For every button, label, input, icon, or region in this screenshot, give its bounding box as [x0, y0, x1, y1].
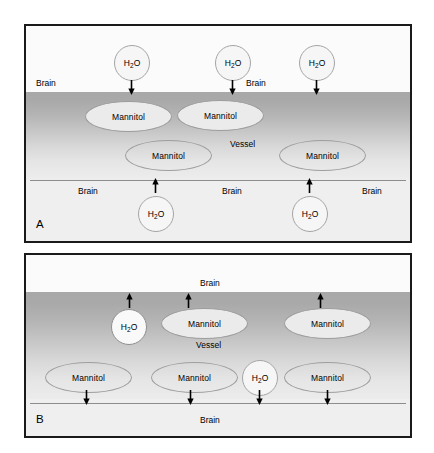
panel-a-vessel-lower-wall	[30, 180, 406, 181]
panel-b-mannitol-3: Mannitol	[45, 362, 132, 393]
panel-a-water-molecule-1: H2O	[114, 45, 150, 81]
panel-b-arrow-down-2	[186, 390, 195, 405]
panel-a-arrow-up-2	[305, 178, 314, 193]
panel-b-water-molecule-1: H2O	[111, 309, 147, 345]
panel-b-arrow-down-3	[255, 390, 264, 405]
panel-a-water-molecule-4: H2O	[138, 196, 174, 232]
panel-a-brain-label-4: Brain	[222, 186, 242, 196]
panel-b-arrow-down-1	[82, 390, 91, 405]
panel-a-letter: A	[36, 218, 44, 230]
panel-a-mannitol-4: Mannitol	[279, 140, 366, 171]
water-formula: H2O	[309, 58, 326, 68]
panel-a-water-molecule-5: H2O	[292, 196, 328, 232]
panel-b-mannitol-4: Mannitol	[151, 362, 238, 393]
panel-a-arrow-down-1	[127, 80, 136, 95]
panel-a-arrow-down-2	[228, 80, 237, 95]
panel-b-brain-label-bottom: Brain	[200, 415, 220, 425]
panel-a-brain-label-1: Brain	[36, 78, 56, 88]
panel-a-water-molecule-2: H2O	[215, 45, 251, 81]
panel-a-brain-label-2: Brain	[246, 78, 266, 88]
figure-root: Brain Brain Brain Brain Brain Vessel H2O…	[0, 0, 434, 453]
panel-a-mannitol-2: Mannitol	[177, 100, 264, 131]
panel-a-mannitol-3: Mannitol	[125, 140, 212, 171]
panel-a-water-molecule-3: H2O	[299, 45, 335, 81]
panel-b-brain-label-top: Brain	[200, 278, 220, 288]
water-formula: H2O	[124, 58, 141, 68]
panel-a-brain-label-5: Brain	[362, 186, 382, 196]
panel-a-arrow-up-1	[151, 178, 160, 193]
panel-b: Brain Brain Vessel H2O Mannitol Mannitol…	[24, 253, 412, 438]
panel-b-arrow-down-4	[323, 390, 332, 405]
panel-a-brain-label-3: Brain	[78, 186, 98, 196]
panel-b-mannitol-2: Mannitol	[284, 308, 371, 339]
panel-b-arrow-up-2	[184, 293, 193, 308]
panel-b-mannitol-1: Mannitol	[161, 308, 248, 339]
water-formula: H2O	[121, 322, 138, 332]
panel-b-arrow-up-1	[125, 293, 134, 308]
water-formula: H2O	[225, 58, 242, 68]
water-formula: H2O	[302, 209, 319, 219]
water-formula: H2O	[148, 209, 165, 219]
panel-a-vessel-label: Vessel	[230, 139, 255, 149]
panel-b-arrow-up-3	[316, 293, 325, 308]
panel-a-arrow-down-3	[312, 80, 321, 95]
panel-b-vessel-label: Vessel	[196, 340, 221, 350]
panel-a-mannitol-1: Mannitol	[85, 101, 172, 132]
water-formula: H2O	[252, 373, 269, 383]
panel-b-mannitol-5: Mannitol	[284, 362, 371, 393]
panel-a: Brain Brain Brain Brain Brain Vessel H2O…	[24, 24, 412, 243]
panel-b-letter: B	[36, 413, 44, 425]
